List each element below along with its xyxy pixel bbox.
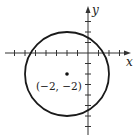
center-point	[65, 72, 69, 76]
y-axis-label: y	[91, 3, 99, 17]
y-axis	[85, 6, 91, 135]
circle-graph: x y (−2, −2)	[0, 0, 135, 138]
center-point-label: (−2, −2)	[36, 80, 82, 92]
y-axis-arrow-icon	[86, 6, 91, 13]
x-axis-label: x	[126, 55, 133, 69]
x-axis	[5, 50, 131, 56]
